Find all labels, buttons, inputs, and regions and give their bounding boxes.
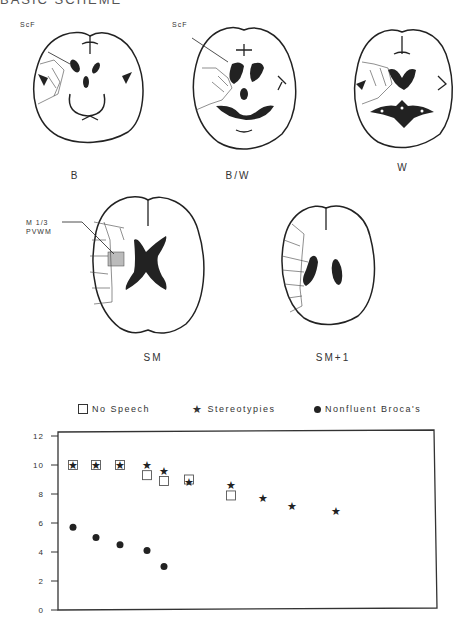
legend-label-nonfluent: Nonfluent Broca's bbox=[325, 404, 421, 414]
diagram-label-sm1: SM+1 bbox=[308, 352, 358, 363]
y-tick-label: 2 bbox=[39, 577, 44, 586]
point-nonfluent bbox=[93, 534, 100, 541]
annotation-scf-b: ScF bbox=[20, 20, 35, 29]
diagram-label-bw: B/W bbox=[218, 170, 258, 181]
legend-item-stereotypies: ★ Stereotypies bbox=[192, 404, 276, 414]
brain-diagram-w bbox=[348, 24, 458, 154]
annotation-scf-bw: ScF bbox=[172, 20, 187, 29]
point-stereotypies: ★ bbox=[115, 459, 125, 471]
point-stereotypies: ★ bbox=[184, 476, 194, 488]
point-no-speech bbox=[227, 491, 236, 500]
legend-item-nonfluent: Nonfluent Broca's bbox=[314, 404, 421, 414]
brain-diagram-bw bbox=[182, 24, 302, 154]
diagram-label-b: B bbox=[60, 170, 90, 181]
brain-diagram-sm bbox=[90, 192, 210, 342]
legend-item-no-speech: No Speech bbox=[78, 404, 150, 414]
y-tick-label: 6 bbox=[39, 519, 44, 528]
diagram-label-w: W bbox=[388, 162, 418, 173]
point-stereotypies: ★ bbox=[91, 459, 101, 471]
y-tick-label: 8 bbox=[39, 490, 44, 499]
brain-diagram-b bbox=[18, 24, 158, 144]
page-header: BASIC SCHEME bbox=[0, 0, 122, 7]
point-no-speech bbox=[160, 476, 169, 485]
point-nonfluent bbox=[161, 563, 168, 570]
filled-circle-icon bbox=[314, 406, 321, 413]
legend-label-stereotypies: Stereotypies bbox=[208, 404, 276, 414]
point-nonfluent bbox=[117, 541, 124, 548]
annotation-line-1: M 1/3 bbox=[26, 218, 52, 227]
point-stereotypies: ★ bbox=[159, 465, 169, 477]
annotation-line-2: PVWM bbox=[26, 227, 52, 236]
plot-frame bbox=[58, 430, 437, 610]
point-stereotypies: ★ bbox=[142, 459, 152, 471]
legend-label-no-speech: No Speech bbox=[92, 404, 150, 414]
star-icon: ★ bbox=[192, 405, 204, 414]
point-stereotypies: ★ bbox=[258, 492, 268, 504]
point-no-speech bbox=[143, 471, 152, 480]
point-nonfluent bbox=[70, 524, 77, 531]
annotation-m13-pvwm: M 1/3 PVWM bbox=[26, 218, 52, 236]
point-stereotypies: ★ bbox=[226, 479, 236, 491]
scatter-chart: 024681012★★★★★★★★★★ bbox=[0, 420, 466, 619]
diagram-label-sm: SM bbox=[138, 352, 168, 363]
y-tick-label: 0 bbox=[39, 606, 44, 615]
y-tick-label: 12 bbox=[33, 432, 44, 441]
point-stereotypies: ★ bbox=[68, 459, 78, 471]
y-tick-label: 4 bbox=[39, 548, 44, 557]
y-tick-label: 10 bbox=[33, 461, 44, 470]
brain-diagram-sm1 bbox=[280, 200, 380, 330]
open-square-icon bbox=[78, 404, 88, 414]
point-stereotypies: ★ bbox=[287, 500, 297, 512]
point-nonfluent bbox=[144, 547, 151, 554]
point-stereotypies: ★ bbox=[331, 505, 341, 517]
annotation-leader-line bbox=[60, 220, 120, 260]
